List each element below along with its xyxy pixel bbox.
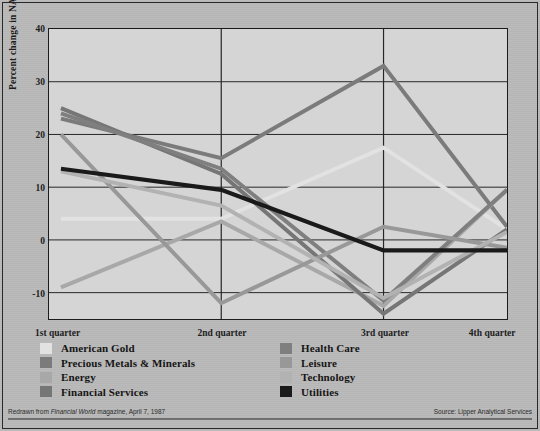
x-axis-tick-label: 4th quarter <box>469 328 516 338</box>
legend-item: Utilities <box>280 385 496 399</box>
legend-swatch <box>280 343 292 354</box>
legend-column-right: Health CareLeisureTechnologyUtilities <box>280 341 496 399</box>
series-line <box>61 148 507 230</box>
chart-figure: Percent change in NAV 403020100-101st qu… <box>0 0 540 431</box>
legend-item: Health Care <box>280 341 496 355</box>
legend-swatch <box>280 372 292 383</box>
legend-item-label: Financial Services <box>61 386 148 398</box>
x-axis-tick-label: 2nd quarter <box>198 328 247 338</box>
y-axis-tick-label: -10 <box>32 289 45 299</box>
legend-item-label: Technology <box>301 371 355 383</box>
legend-item: Technology <box>280 370 496 384</box>
legend-swatch <box>40 386 52 397</box>
y-axis-tick-label: 30 <box>36 77 46 87</box>
legend-swatch <box>40 357 52 368</box>
x-axis-tick-label: 1st quarter <box>35 328 80 338</box>
chart-legend: American GoldPrecious Metals & MineralsE… <box>40 341 496 399</box>
legend-item: Financial Services <box>40 385 280 399</box>
legend-item-label: American Gold <box>61 342 135 354</box>
y-axis-tick-label: 0 <box>40 236 45 246</box>
legend-item-label: Precious Metals & Minerals <box>61 357 195 369</box>
legend-item: Energy <box>40 370 280 384</box>
legend-item-label: Health Care <box>301 342 360 354</box>
plot-wrapper: Percent change in NAV 403020100-101st qu… <box>36 20 508 314</box>
legend-swatch <box>280 357 292 368</box>
footer-attribution: Redrawn from Financial World magazine, A… <box>8 408 165 415</box>
legend-item: Leisure <box>280 356 496 370</box>
legend-item: Precious Metals & Minerals <box>40 356 280 370</box>
line-chart-svg <box>49 29 507 319</box>
figure-footer: Redrawn from Financial World magazine, A… <box>8 404 532 418</box>
legend-item: American Gold <box>40 341 280 355</box>
x-axis-tick-label: 3rd quarter <box>361 328 409 338</box>
legend-swatch <box>40 372 52 383</box>
legend-item-label: Utilities <box>301 386 339 398</box>
footer-publication-name: Financial World <box>51 408 96 415</box>
y-axis-tick-label: 20 <box>36 130 46 140</box>
legend-item-label: Leisure <box>301 357 337 369</box>
plot-area: 403020100-101st quarter2nd quarter3rd qu… <box>48 28 508 320</box>
y-axis-tick-label: 40 <box>36 24 46 34</box>
legend-swatch <box>280 386 292 397</box>
y-axis-title: Percent change in NAV <box>8 0 18 116</box>
legend-column-left: American GoldPrecious Metals & MineralsE… <box>40 341 280 399</box>
y-axis-tick-label: 10 <box>36 183 46 193</box>
footer-source: Source: Lipper Analytical Services <box>434 408 532 415</box>
legend-swatch <box>40 343 52 354</box>
legend-item-label: Energy <box>61 371 96 383</box>
footer-divider <box>8 418 532 420</box>
